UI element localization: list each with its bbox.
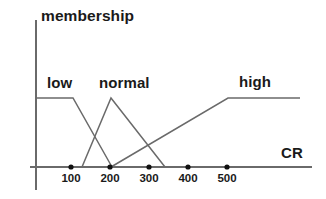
x-tick-label-500: 500 [207, 172, 247, 184]
tick-marker-500 [224, 164, 229, 169]
tick-marker-400 [185, 164, 190, 169]
series-label-high: high [239, 73, 271, 90]
tick-marker-100 [68, 164, 73, 169]
x-tick-label-100: 100 [51, 172, 91, 184]
x-tick-label-300: 300 [129, 172, 169, 184]
series-label-low: low [47, 74, 72, 91]
x-axis-title: CR [281, 144, 303, 161]
series-label-normal: normal [99, 74, 150, 91]
curve-low [36, 98, 112, 167]
x-tick-label-200: 200 [90, 172, 130, 184]
y-axis-title: membership [41, 7, 134, 25]
tick-marker-300 [146, 164, 151, 169]
curve-high [111, 98, 300, 167]
x-tick-label-400: 400 [168, 172, 208, 184]
membership-function-chart: membership low normal high CR 100 200 30… [0, 0, 326, 199]
chart-plot-area [0, 0, 326, 199]
curve-normal [82, 98, 165, 167]
tick-marker-200 [107, 164, 112, 169]
